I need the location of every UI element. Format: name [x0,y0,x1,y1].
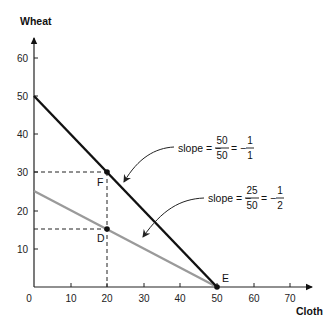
production-possibility-chart: Wheat Cloth 10 20 30 40 50 60 0 10 20 30… [0,0,332,334]
svg-text:1: 1 [247,150,253,161]
svg-text:25: 25 [246,185,258,196]
svg-text:20: 20 [17,206,29,217]
annotation-arrow-gray [143,198,204,237]
gray-line-slope-half [34,191,217,287]
svg-text:30: 30 [138,293,150,304]
svg-text:1: 1 [277,185,283,196]
dashed-guides [34,172,107,287]
svg-text:40: 40 [17,129,29,140]
svg-text:50: 50 [211,293,223,304]
label-F: F [97,176,103,188]
svg-text:70: 70 [284,293,296,304]
svg-text:2: 2 [277,200,283,211]
annotation-slope-gray: slope = − 25 50 = − 1 2 [208,185,284,211]
svg-text:20: 20 [101,293,113,304]
point-D [104,226,110,232]
svg-text:50: 50 [216,150,228,161]
svg-text:= −: = − [261,192,276,204]
svg-text:10: 10 [17,244,29,255]
svg-text:30: 30 [17,167,29,178]
svg-text:10: 10 [65,293,77,304]
label-E: E [222,272,229,284]
point-F [104,169,110,175]
x-tick-labels: 0 10 20 30 40 50 60 70 [26,293,296,304]
svg-text:60: 60 [248,293,260,304]
svg-text:50: 50 [17,91,29,102]
y-axis-title: Wheat [20,15,52,27]
svg-text:slope = −: slope = − [208,192,251,204]
y-tick-labels: 10 20 30 40 50 60 [17,53,29,255]
point-E [214,284,220,290]
svg-text:40: 40 [174,293,186,304]
svg-text:50: 50 [216,135,228,146]
black-line-slope-one [34,96,217,287]
svg-text:50: 50 [246,200,258,211]
label-D: D [97,232,105,244]
x-axis-title: Cloth [296,305,323,317]
annotation-slope-black: slope = − 50 50 = − 1 1 [178,135,254,161]
annotation-arrow-black [124,147,174,182]
svg-text:= −: = − [231,142,246,154]
svg-text:0: 0 [26,293,32,304]
svg-text:60: 60 [17,53,29,64]
svg-text:1: 1 [247,135,253,146]
svg-text:slope = −: slope = − [178,142,221,154]
